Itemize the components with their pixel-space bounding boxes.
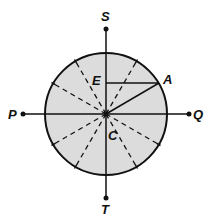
circle-diagram: S T P Q A E C: [0, 0, 216, 222]
label-P: P: [8, 107, 17, 122]
point-S: [104, 27, 109, 32]
point-C: [104, 112, 108, 116]
label-T: T: [101, 202, 110, 217]
label-E: E: [92, 73, 101, 88]
label-S: S: [101, 9, 110, 24]
label-Q: Q: [193, 107, 203, 122]
label-C: C: [108, 128, 118, 143]
point-Q: [187, 112, 192, 117]
label-A: A: [162, 72, 172, 87]
point-T: [104, 196, 109, 201]
point-P: [21, 112, 26, 117]
